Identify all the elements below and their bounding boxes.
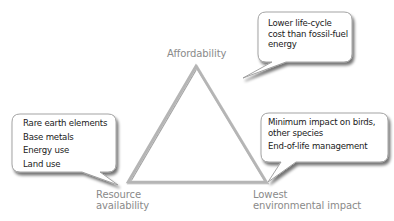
affordability-callout-line: energy: [268, 39, 348, 50]
resource-label-line2: availability: [96, 200, 149, 211]
affordability-callout-text: Lower life-cycle cost than fossil-fuel e…: [268, 18, 348, 50]
environment-callout-item1-line1: Minimum impact on birds,: [268, 117, 375, 128]
affordability-callout-line: Lower life-cycle: [268, 18, 348, 29]
resource-callout-item: Base metals: [23, 131, 107, 145]
resource-callout-text: Rare earth elements Base metals Energy u…: [23, 117, 107, 171]
affordability-callout-line: cost than fossil-fuel: [268, 29, 348, 40]
environment-label-line2: environmental impact: [253, 200, 361, 211]
resource-callout-item: Land use: [23, 158, 107, 172]
tradeoff-triangle: [128, 66, 266, 182]
vertex-label-affordability: Affordability: [167, 48, 226, 59]
vertex-label-environmental-impact: Lowest environmental impact: [253, 189, 361, 211]
resource-label-line1: Resource: [96, 189, 149, 200]
resource-callout-item: Rare earth elements: [23, 117, 107, 131]
environment-callout-item2: End-of-life management: [268, 141, 375, 152]
vertex-label-resource-availability: Resource availability: [96, 189, 149, 211]
environment-callout-item1-line2: other species: [268, 128, 375, 139]
environment-label-line1: Lowest: [253, 189, 361, 200]
resource-callout-item: Energy use: [23, 144, 107, 158]
affordability-label: Affordability: [167, 48, 226, 59]
tradeoff-triangle-diagram: Affordability Resource availability Lowe…: [0, 0, 394, 221]
environment-callout-text: Minimum impact on birds, other species E…: [268, 117, 375, 152]
